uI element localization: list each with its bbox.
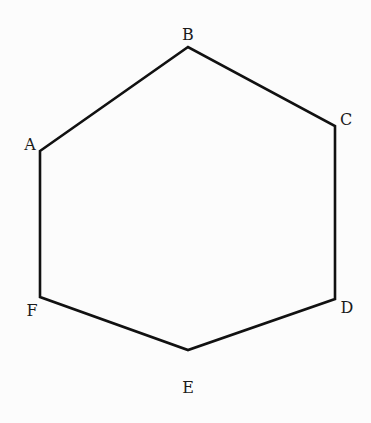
- vertex-label-b: B: [182, 25, 194, 44]
- vertex-label-e: E: [182, 378, 194, 397]
- vertex-label-f: F: [26, 301, 37, 320]
- vertex-label-c: C: [340, 110, 352, 129]
- vertex-label-a: A: [23, 135, 36, 154]
- vertex-label-d: D: [341, 298, 354, 317]
- hexagon-outline: [40, 47, 335, 350]
- hexagon-diagram: A B C D E F: [0, 0, 371, 423]
- hexagon-figure: A B C D E F: [0, 0, 371, 423]
